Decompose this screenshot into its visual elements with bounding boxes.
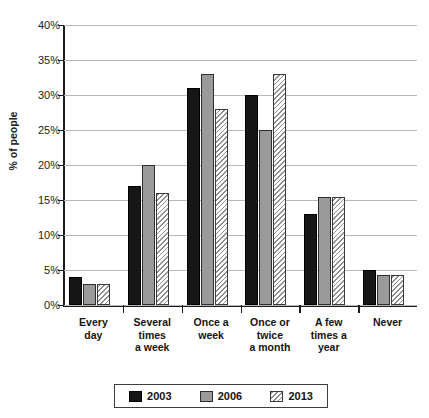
x-axis-separator	[182, 305, 183, 313]
x-axis-separator	[241, 305, 242, 313]
x-axis-label-line: day	[64, 329, 123, 342]
y-tick-label: 30%	[14, 89, 60, 101]
x-axis-label-line: times	[123, 329, 182, 342]
x-axis-label: Severaltimesa week	[123, 316, 182, 354]
legend-label: 2003	[147, 390, 171, 402]
bar-2003-5	[363, 270, 376, 305]
bar-2006-3	[259, 130, 272, 305]
legend-item-2013: 2013	[270, 390, 312, 402]
bar-2003-0	[69, 277, 82, 305]
x-axis-separator	[358, 305, 359, 313]
bar-2006-1	[142, 165, 155, 305]
x-axis-separator	[299, 305, 300, 313]
plot-area	[64, 25, 417, 305]
x-axis-label-line: twice	[241, 329, 300, 342]
x-axis-label-line: Once or	[241, 316, 300, 329]
bar-2013-3	[273, 74, 286, 305]
bar-2013-2	[215, 109, 228, 305]
bar-group	[123, 25, 182, 305]
bar-2013-4	[332, 197, 345, 306]
x-axis-label-line: year	[299, 341, 358, 354]
chart-title	[0, 0, 429, 4]
bar-2003-4	[304, 214, 317, 305]
x-axis-label-line: week	[182, 329, 241, 342]
legend-swatch-icon	[270, 391, 283, 402]
bar-2013-5	[391, 275, 404, 305]
x-axis-label-line: Never	[358, 316, 417, 329]
y-tick-label: 20%	[14, 159, 60, 171]
bar-chart: % of people 0%5%10%15%20%25%30%35%40% Ev…	[0, 0, 429, 418]
x-axis-label-line: Several	[123, 316, 182, 329]
bar-group	[241, 25, 300, 305]
x-axis-separator	[123, 305, 124, 313]
x-axis-label-line: A few	[299, 316, 358, 329]
bar-2006-2	[201, 74, 214, 305]
x-axis-label-line: Once a	[182, 316, 241, 329]
chart-legend: 200320062013	[114, 384, 328, 408]
x-axis-label: Once ortwicea month	[241, 316, 300, 354]
legend-swatch-icon	[129, 391, 142, 402]
bar-2003-2	[187, 88, 200, 305]
bar-group	[182, 25, 241, 305]
x-axis-label: Everyday	[64, 316, 123, 341]
bar-series-container	[64, 25, 417, 305]
bar-2013-0	[97, 284, 110, 305]
y-tick-label: 40%	[14, 19, 60, 31]
x-axis-label-line: a week	[123, 341, 182, 354]
y-tick-label: 15%	[14, 194, 60, 206]
legend-item-2003: 2003	[129, 390, 171, 402]
x-axis-label-line: times a	[299, 329, 358, 342]
bar-group	[64, 25, 123, 305]
x-axis-label: Once aweek	[182, 316, 241, 341]
legend-label: 2013	[288, 390, 312, 402]
bar-2006-0	[83, 284, 96, 305]
y-tick-label: 5%	[14, 264, 60, 276]
bar-2003-1	[128, 186, 141, 305]
x-axis-label: A fewtimes ayear	[299, 316, 358, 354]
bar-2003-3	[245, 95, 258, 305]
y-tick-label: 10%	[14, 229, 60, 241]
x-axis-label: Never	[358, 316, 417, 329]
x-axis-label-line: Every	[64, 316, 123, 329]
legend-item-2006: 2006	[200, 390, 242, 402]
bar-2006-5	[377, 275, 390, 305]
y-tick-label: 25%	[14, 124, 60, 136]
bar-group	[299, 25, 358, 305]
y-tick-label: 0%	[14, 299, 60, 311]
x-axis-label-line: a month	[241, 341, 300, 354]
legend-label: 2006	[218, 390, 242, 402]
legend-swatch-icon	[200, 391, 213, 402]
bar-2006-4	[318, 197, 331, 306]
bar-2013-1	[156, 193, 169, 305]
bar-group	[358, 25, 417, 305]
y-tick-label: 35%	[14, 54, 60, 66]
